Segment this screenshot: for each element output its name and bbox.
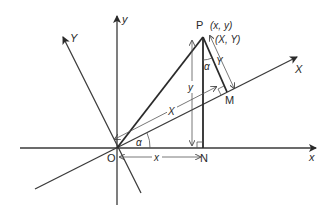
rotated-axes-diagram: P (x, y) (X, Y) O N M y Y X x x y X Y α …	[0, 0, 331, 213]
angle-label-P: α	[204, 61, 210, 72]
angle-label-O: α	[136, 137, 142, 148]
axis-label-Y: Y	[70, 32, 78, 44]
angle-arc-P	[203, 58, 212, 60]
label-P: P	[196, 19, 203, 31]
label-O: O	[107, 152, 116, 164]
axis-label-y: y	[121, 13, 129, 25]
axis-label-x: x	[308, 151, 315, 163]
label-M: M	[225, 94, 234, 106]
label-N: N	[200, 152, 208, 164]
measure-Y: Y	[216, 56, 224, 67]
measure-y: y	[187, 82, 194, 93]
axis-label-X: X	[294, 63, 303, 75]
measure-x: x	[153, 152, 160, 163]
dim-X	[115, 87, 216, 139]
measure-X: X	[167, 106, 175, 117]
label-P-coords: (x, y)	[210, 20, 232, 31]
label-P-coords-rotated: (X, Y)	[215, 34, 240, 45]
angle-arc-O	[147, 133, 150, 148]
X-axis-rotated	[35, 57, 297, 189]
